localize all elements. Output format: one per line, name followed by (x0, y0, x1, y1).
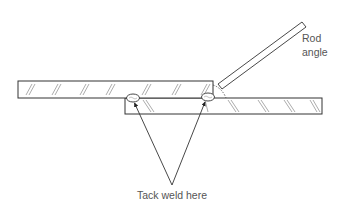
rod-label-line1: Rod (302, 32, 321, 44)
tack-weld-left (127, 94, 140, 102)
arrow-left (135, 103, 173, 185)
welding-rod (218, 22, 306, 89)
tack-weld-right (202, 93, 215, 101)
top-plate (18, 81, 213, 98)
bottom-plate (125, 98, 322, 114)
tack-weld-label: Tack weld here (137, 189, 207, 201)
rod-label-line2: angle (302, 46, 328, 58)
lap-joint-diagram: Rod angle Tack weld here (0, 0, 344, 211)
